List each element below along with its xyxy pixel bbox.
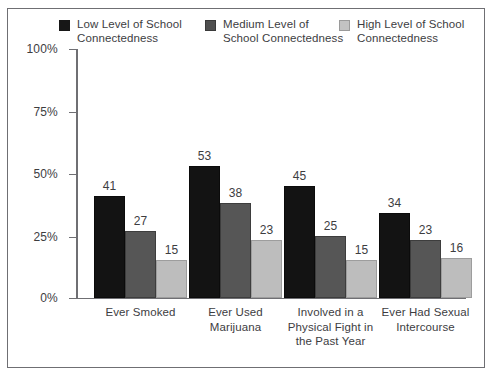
legend-item-medium[interactable]: Medium Level of School Connectedness [205,18,345,45]
bar-value-label: 15 [165,243,179,257]
bar-value-label: 53 [198,149,212,163]
bar-wrap: 38 [220,50,251,298]
bar-group: 342316 [379,50,472,298]
y-tick-100: 100% [69,49,76,50]
bar-value-label: 16 [450,241,464,255]
y-tick-0: 0% [69,298,76,299]
bar-high[interactable] [251,240,282,297]
legend-item-low[interactable]: Low Level of School Connectedness [59,18,199,45]
bar-wrap: 34 [379,50,410,298]
y-axis-line [76,49,78,299]
bar-wrap: 41 [94,50,125,298]
bar-high[interactable] [441,258,472,298]
bar-wrap: 25 [315,50,346,298]
category-label: Ever Had Sexual Intercourse [365,305,486,334]
legend-swatch-medium-icon [205,20,216,31]
bar-low[interactable] [379,213,410,297]
bar-medium[interactable] [125,231,156,298]
bar-low[interactable] [284,186,315,298]
y-tick-label-75: 75% [33,105,58,119]
chart-frame: Low Level of School Connectedness Medium… [7,8,485,368]
y-tick-50: 50% [69,174,76,175]
bar-wrap: 23 [410,50,441,298]
y-tick-25: 25% [69,237,76,238]
bar-wrap: 23 [251,50,282,298]
legend-label-high: High Level of School Connectedness [357,18,464,45]
legend-label-low: Low Level of School Connectedness [77,18,182,45]
plot-area: 100% 75% 50% 25% 0% 41271553382345251534… [76,49,466,299]
bar-wrap: 27 [125,50,156,298]
bar-wrap: 15 [156,50,187,298]
bar-medium[interactable] [220,203,251,297]
bar-value-label: 41 [103,179,117,193]
bar-wrap: 16 [441,50,472,298]
chart-screenshot: Low Level of School Connectedness Medium… [0,0,494,377]
legend-item-high[interactable]: High Level of School Connectedness [339,18,484,45]
bar-value-label: 23 [260,223,274,237]
bar-group: 412715 [94,50,187,298]
x-axis-line [76,298,466,300]
bar-medium[interactable] [410,240,441,297]
bar-wrap: 45 [284,50,315,298]
y-tick-label-50: 50% [33,167,58,181]
legend-swatch-low-icon [59,20,70,31]
y-tick-75: 75% [69,112,76,113]
bar-value-label: 23 [419,223,433,237]
y-tick-label-100: 100% [27,42,59,56]
bar-value-label: 27 [134,214,148,228]
bar-high[interactable] [346,260,377,297]
legend-swatch-high-icon [339,20,350,31]
bar-value-label: 45 [293,169,307,183]
bar-group: 452515 [284,50,377,298]
bar-value-label: 25 [324,219,338,233]
bar-wrap: 15 [346,50,377,298]
bar-value-label: 38 [229,186,243,200]
bar-value-label: 34 [388,196,402,210]
bar-group: 533823 [189,50,282,298]
y-tick-label-25: 25% [33,230,58,244]
bar-high[interactable] [156,260,187,297]
bar-low[interactable] [94,196,125,298]
bar-wrap: 53 [189,50,220,298]
bar-medium[interactable] [315,236,346,298]
bar-low[interactable] [189,166,220,297]
legend-label-medium: Medium Level of School Connectedness [223,18,343,45]
bar-value-label: 15 [355,243,369,257]
y-tick-label-0: 0% [40,291,58,305]
